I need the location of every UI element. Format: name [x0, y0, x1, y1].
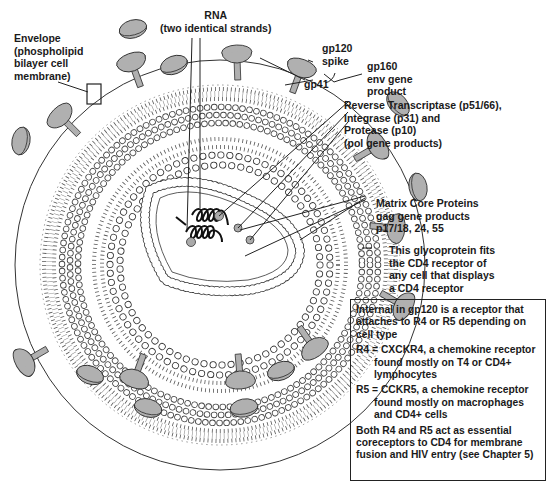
envelope-label-line: membrane) [14, 70, 83, 83]
rna-label: RNA (two identical strands) [160, 9, 271, 34]
info-r4: R4 = CXCKR4, a chemokine receptor found … [356, 344, 540, 381]
gag-label-line: Matrix Core Proteins [376, 197, 479, 210]
pol-products-label: Reverse Transcriptase (p51/66), Integras… [344, 99, 502, 149]
pol-label-line: Integrase (p31) and [344, 112, 502, 125]
info-intro: Internal in gp120 is a receptor that att… [356, 304, 540, 341]
gag-products-label: Matrix Core Proteins gag gene products p… [376, 197, 479, 235]
envelope-label-line: (phospholipid [14, 45, 83, 58]
rna-label-line: RNA [160, 9, 271, 22]
gag-label-line: gag gene products [376, 210, 479, 223]
glycoprotein-label-line: This glycoprotein fits [389, 244, 495, 257]
gp160-label-line: env gene [367, 73, 413, 86]
gp160-label-line: gp160 [367, 60, 413, 73]
glycoprotein-label-line: a CD4 receptor [389, 282, 495, 295]
pol-label-line: Protease (p10) [344, 124, 502, 137]
glycoprotein-label: This glycoprotein fits the CD4 receptor … [389, 244, 495, 294]
gp41-label: gp41 [304, 78, 329, 91]
envelope-marker-box [87, 84, 101, 104]
gp120-label-line: gp120 [322, 42, 352, 55]
gp160-label: gp160 env gene product [367, 60, 413, 98]
envelope-label-line: Envelope [14, 32, 83, 45]
pol-label-line: (pol gene products) [344, 137, 502, 150]
coreceptor-info-box: Internal in gp120 is a receptor that att… [350, 299, 546, 481]
gp120-label: gp120 spike [322, 42, 352, 67]
gp41-label-line: gp41 [304, 78, 329, 91]
gp120-label-line: spike [322, 55, 352, 68]
gag-label-line: p17/18, 24, 55 [376, 222, 479, 235]
info-conclusion: Both R4 and R5 act as essential corecept… [356, 425, 540, 462]
gp160-label-line: product [367, 85, 413, 98]
envelope-label-line: bilayer cell [14, 57, 83, 70]
pol-label-line: Reverse Transcriptase (p51/66), [344, 99, 502, 112]
capsid-core [145, 182, 300, 291]
rna-label-line: (two identical strands) [160, 22, 271, 35]
info-r5: R5 = CCKR5, a chemokine receptor found m… [356, 384, 540, 421]
glycoprotein-label-line: the CD4 receptor of [389, 257, 495, 270]
envelope-label: Envelope (phospholipid bilayer cell memb… [14, 32, 83, 82]
glycoprotein-label-line: any cell that displays [389, 269, 495, 282]
